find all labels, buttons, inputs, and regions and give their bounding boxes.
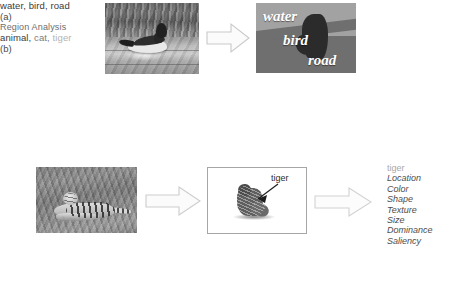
pavement-seam	[105, 64, 199, 65]
arrow-b-region-to-analysis	[314, 187, 372, 217]
panel-a-letter: (a)	[0, 11, 457, 22]
tag-cat: cat,	[34, 32, 50, 43]
semantic-segmentation-map: water bird road	[256, 3, 356, 73]
region-attribute-saliency: Saliency	[387, 236, 433, 246]
tag-water: water	[0, 0, 23, 11]
duck-on-water-photograph	[105, 3, 199, 74]
tiger-on-grass-photograph	[36, 167, 137, 233]
segment-label-bird: bird	[283, 33, 308, 48]
region-analysis-subject: tiger	[387, 163, 433, 173]
region-analysis-attribute-list: tiger Location Color Shape Texture Size …	[387, 163, 433, 246]
duck-tail	[119, 39, 135, 48]
background-reeds	[105, 3, 199, 37]
tag-road: road	[50, 0, 69, 11]
segmented-region-box: tiger	[207, 167, 307, 234]
region-attribute-dominance: Dominance	[387, 225, 433, 235]
region-attribute-location: Location	[387, 173, 433, 183]
tag-animal: animal,	[0, 32, 31, 43]
panel-a-tag-caption: water, bird, road	[0, 0, 457, 11]
segment-label-road: road	[308, 53, 336, 68]
water-splash	[126, 51, 164, 61]
segment-label-water: water	[263, 9, 297, 24]
duck-head	[156, 23, 167, 38]
region-annotation-label: tiger	[271, 173, 289, 183]
region-attribute-color: Color	[387, 184, 433, 194]
arrow-a-photo-to-segmap	[206, 22, 250, 54]
region-attribute-size: Size	[387, 215, 433, 225]
tiger-face-markings	[64, 193, 77, 205]
arrow-b-photo-to-region	[145, 186, 201, 216]
figure-root: water bird road water, bird, road (a) Re…	[0, 0, 457, 286]
region-attribute-shape: Shape	[387, 194, 433, 204]
region-attribute-texture: Texture	[387, 205, 433, 215]
region-annotation-pointer	[208, 168, 306, 233]
tag-bird: bird	[29, 0, 45, 11]
tag-tiger: tiger	[53, 32, 72, 43]
